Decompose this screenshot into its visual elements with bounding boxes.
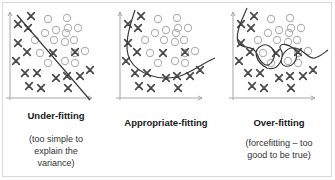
- cross-data-point: [53, 75, 60, 82]
- circle-data-point: [70, 36, 77, 43]
- cross-data-point: [28, 13, 35, 20]
- circle-data-point: [275, 26, 282, 33]
- circle-data-point: [173, 14, 180, 21]
- cross-data-point: [138, 13, 145, 20]
- cross-data-point: [135, 25, 142, 32]
- circle-data-point: [254, 36, 261, 43]
- panel-appropriate-fitting: Appropriate-fitting: [110, 0, 222, 180]
- cross-data-point: [87, 67, 94, 74]
- cross-data-point: [261, 85, 268, 92]
- cross-data-point: [160, 50, 167, 57]
- cross-data-point: [287, 73, 294, 80]
- cross-data-point: [65, 85, 72, 92]
- circle-data-point: [36, 49, 43, 56]
- cross-data-point: [34, 70, 41, 77]
- circle-data-point: [154, 15, 161, 22]
- decision-boundary: [237, 8, 328, 69]
- circle-data-point: [191, 47, 198, 54]
- panel-over-fitting: Over-fitting (forcefitting – too good to…: [223, 0, 335, 180]
- circle-data-point: [61, 57, 68, 64]
- cross-data-point: [300, 73, 307, 80]
- panel-title: Appropriate-fitting: [110, 117, 222, 128]
- circle-data-point: [180, 36, 187, 43]
- cross-data-point: [132, 70, 139, 77]
- cross-data-point: [26, 83, 33, 90]
- circle-data-point: [81, 47, 88, 54]
- circle-data-point: [181, 59, 188, 66]
- circle-data-point: [41, 29, 48, 36]
- panel-title: Over-fitting: [223, 117, 335, 128]
- cross-data-point: [38, 85, 45, 92]
- cross-data-point: [187, 73, 194, 80]
- circle-data-point: [273, 36, 280, 43]
- cross-data-point: [276, 75, 283, 82]
- cross-data-point: [15, 21, 22, 28]
- circle-data-point: [171, 57, 178, 64]
- circle-data-point: [61, 38, 68, 45]
- panel-under-fitting: Under-fitting (too simple to explain the…: [0, 0, 112, 180]
- circle-data-point: [162, 26, 169, 33]
- cross-data-point: [15, 40, 22, 47]
- cross-data-point: [257, 70, 264, 77]
- cross-data-point: [249, 83, 256, 90]
- cross-data-point: [136, 83, 143, 90]
- circle-data-point: [297, 24, 304, 31]
- circle-data-point: [146, 49, 153, 56]
- cross-data-point: [148, 85, 155, 92]
- circle-data-point: [259, 49, 266, 56]
- cross-data-point: [245, 70, 252, 77]
- cross-data-point: [24, 49, 31, 56]
- circle-data-point: [154, 59, 161, 66]
- appropriate-fitting-plot: [110, 0, 222, 105]
- circle-data-point: [74, 24, 81, 31]
- circle-data-point: [293, 36, 300, 43]
- circle-data-point: [44, 15, 51, 22]
- cross-data-point: [13, 58, 20, 65]
- cross-data-point: [123, 58, 130, 65]
- cross-data-point: [248, 25, 255, 32]
- circle-data-point: [160, 36, 167, 43]
- cross-data-point: [175, 85, 182, 92]
- cross-data-point: [125, 40, 132, 47]
- cross-data-point: [22, 70, 29, 77]
- cross-data-point: [77, 73, 84, 80]
- under-fitting-plot: [0, 0, 112, 105]
- circle-data-point: [171, 38, 178, 45]
- circle-data-point: [52, 26, 59, 33]
- circle-data-point: [286, 14, 293, 21]
- circle-data-point: [184, 24, 191, 31]
- cross-data-point: [251, 13, 258, 20]
- panel-caption: (too simple to explain the variance): [0, 133, 112, 169]
- cross-data-point: [236, 58, 243, 65]
- circle-data-point: [267, 15, 274, 22]
- circle-data-point: [151, 29, 158, 36]
- circle-data-point: [63, 14, 70, 21]
- cross-data-point: [247, 49, 254, 56]
- circle-data-point: [71, 59, 78, 66]
- cross-data-point: [50, 50, 57, 57]
- circle-data-point: [44, 59, 51, 66]
- cross-data-point: [288, 85, 295, 92]
- circle-data-point: [31, 36, 38, 43]
- panel-title: Under-fitting: [0, 110, 112, 121]
- cross-data-point: [134, 49, 141, 56]
- cross-data-point: [310, 67, 317, 74]
- circle-data-point: [284, 57, 291, 64]
- circle-data-point: [141, 36, 148, 43]
- panel-caption: (forcefitting – too good to be true): [223, 137, 335, 161]
- circle-data-point: [264, 29, 271, 36]
- circle-data-point: [50, 36, 57, 43]
- over-fitting-plot: [223, 0, 335, 105]
